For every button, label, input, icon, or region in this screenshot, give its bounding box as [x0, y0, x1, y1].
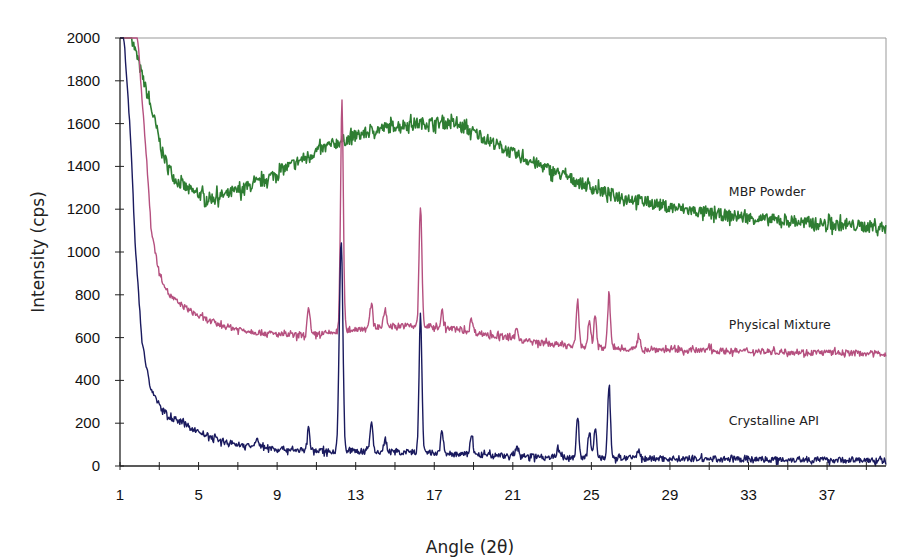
x-tick-label: 29	[662, 486, 679, 503]
y-tick-label: 800	[75, 286, 100, 303]
y-tick-label: 2000	[67, 29, 100, 46]
x-tick-label: 13	[347, 486, 364, 503]
x-tick-label: 5	[194, 486, 202, 503]
xrd-chart: 15913172125293337 0200400600800100012001…	[0, 0, 914, 560]
x-axis: 15913172125293337	[116, 462, 886, 503]
x-tick-label: 17	[426, 486, 443, 503]
y-tick-label: 200	[75, 414, 100, 431]
x-axis-title: Angle (2θ)	[426, 537, 514, 557]
series-mbp-powder	[120, 38, 886, 236]
plot-frame	[120, 38, 886, 466]
y-tick-label: 1600	[67, 115, 100, 132]
series-label: Physical Mixture	[729, 317, 831, 332]
y-tick-label: 0	[92, 457, 100, 474]
x-tick-label: 9	[273, 486, 281, 503]
y-axis: 0200400600800100012001400160018002000	[67, 29, 124, 474]
y-axis-title: Intensity (cps)	[28, 191, 48, 313]
series-layer	[120, 38, 886, 466]
x-tick-label: 33	[740, 486, 757, 503]
x-tick-label: 37	[819, 486, 836, 503]
series-label: Crystalline API	[729, 413, 819, 428]
y-tick-label: 1400	[67, 157, 100, 174]
y-tick-label: 400	[75, 371, 100, 388]
x-tick-label: 21	[504, 486, 521, 503]
y-tick-label: 1800	[67, 72, 100, 89]
x-tick-label: 1	[116, 486, 124, 503]
y-tick-label: 1000	[67, 243, 100, 260]
x-tick-label: 25	[583, 486, 600, 503]
y-tick-label: 1200	[67, 200, 100, 217]
series-crystalline-api	[120, 38, 886, 466]
series-label: MBP Powder	[729, 184, 806, 199]
y-tick-label: 600	[75, 329, 100, 346]
